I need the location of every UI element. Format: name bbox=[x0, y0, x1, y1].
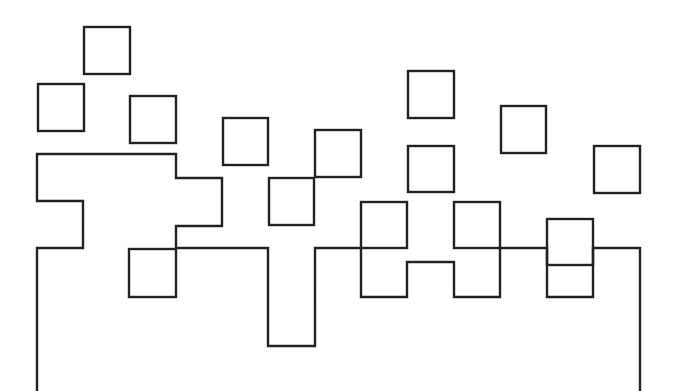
diagram-canvas bbox=[0, 0, 678, 391]
background bbox=[0, 0, 678, 391]
